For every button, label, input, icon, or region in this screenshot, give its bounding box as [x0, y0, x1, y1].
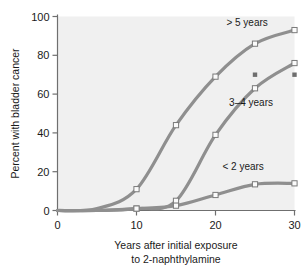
series-marker	[252, 41, 257, 46]
plot-background	[58, 17, 295, 211]
y-tick-label-0: 0	[43, 205, 49, 217]
series-marker	[292, 60, 297, 65]
x-tick-label-0: 0	[54, 219, 60, 231]
x-tick-label-20: 20	[209, 219, 221, 231]
bladder-cancer-exposure-chart: 0204060801000102030Percent with bladder …	[0, 0, 306, 273]
series-marker	[134, 187, 139, 192]
series-label--2-years: < 2 years	[222, 161, 263, 172]
series-marker	[292, 27, 297, 32]
series-label-3-4-years: 3–4 years	[229, 97, 273, 108]
series-marker	[173, 203, 178, 208]
extra-marker-1	[253, 73, 257, 77]
series-marker	[213, 74, 218, 79]
x-axis-title-line1: Years after initial exposure	[114, 239, 238, 251]
x-axis-title-line2: to 2-naphthylamine	[131, 253, 220, 265]
series-marker	[213, 132, 218, 137]
y-axis-title: Percent with bladder cancer	[9, 48, 21, 179]
y-tick-label-80: 80	[37, 49, 49, 61]
x-tick-label-30: 30	[288, 219, 300, 231]
y-tick-label-100: 100	[31, 11, 49, 23]
extra-marker-2	[292, 73, 296, 77]
series-marker	[173, 123, 178, 128]
series-marker	[252, 86, 257, 91]
y-tick-label-60: 60	[37, 88, 49, 100]
series-marker	[134, 206, 139, 211]
x-tick-label-10: 10	[130, 219, 142, 231]
series-marker	[292, 181, 297, 186]
y-tick-label-20: 20	[37, 166, 49, 178]
series-marker	[213, 192, 218, 197]
chart-canvas: 0204060801000102030Percent with bladder …	[0, 0, 306, 273]
y-tick-label-40: 40	[37, 127, 49, 139]
series-label--5-years: > 5 years	[226, 17, 267, 28]
series-marker	[252, 182, 257, 187]
